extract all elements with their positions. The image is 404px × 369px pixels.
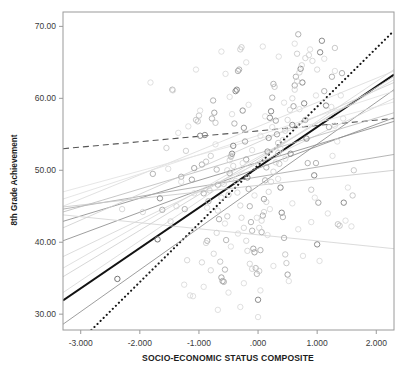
y-tick-label: 30.00 bbox=[35, 309, 57, 319]
x-tick-label: .000 bbox=[250, 338, 267, 348]
x-tick-label: -3.000 bbox=[69, 338, 93, 348]
y-axis-title: 8th Grade Achievement bbox=[10, 134, 19, 225]
x-axis-title: SOCIO-ECONOMIC STATUS COMPOSITE bbox=[142, 353, 314, 363]
x-tick-label: -2.000 bbox=[128, 338, 152, 348]
figure-background bbox=[0, 0, 404, 369]
plot-canvas: -3.000-2.000-1.000.0001.0002.000 30.0040… bbox=[0, 0, 404, 369]
y-tick-label: 40.00 bbox=[35, 237, 57, 247]
x-tick-label: -1.000 bbox=[187, 338, 211, 348]
y-tick-label: 70.00 bbox=[35, 21, 57, 31]
y-tick-label: 50.00 bbox=[35, 165, 57, 175]
x-tick-label: 2.000 bbox=[366, 338, 388, 348]
scatter-plot-figure: -3.000-2.000-1.000.0001.0002.000 30.0040… bbox=[0, 0, 404, 369]
y-tick-label: 60.00 bbox=[35, 93, 57, 103]
x-tick-label: 1.000 bbox=[307, 338, 329, 348]
